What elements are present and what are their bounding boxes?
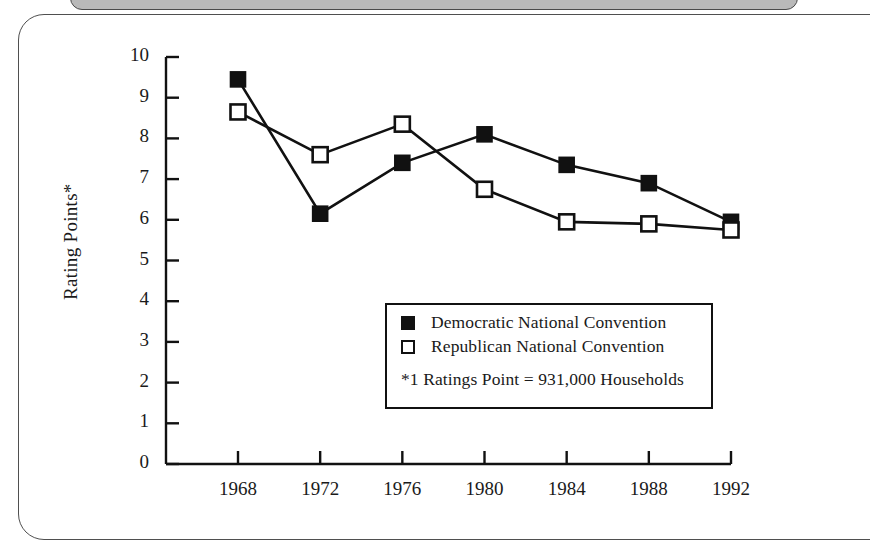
- open-square-marker: [724, 222, 739, 237]
- legend-label-republican: Republican National Convention: [431, 336, 664, 357]
- open-square-marker: [641, 216, 656, 231]
- x-tick-label: 1980: [450, 478, 520, 500]
- filled-square-icon: [401, 316, 415, 330]
- chart-plot-area: Rating Points* 109876543210 196819721976…: [0, 0, 870, 555]
- legend-footnote: *1 Ratings Point = 931,000 Households: [401, 369, 684, 390]
- y-tick-label: 0: [119, 451, 149, 473]
- filled-square-marker: [559, 157, 574, 172]
- filled-square-marker: [395, 155, 410, 170]
- open-square-icon: [401, 340, 415, 354]
- x-tick-label: 1992: [696, 478, 766, 500]
- open-square-marker: [313, 147, 328, 162]
- y-tick-label: 7: [119, 166, 149, 188]
- x-axis-ticks: [238, 451, 731, 464]
- y-tick-label: 3: [119, 329, 149, 351]
- y-axis-ticks: [166, 57, 179, 464]
- open-square-marker: [395, 117, 410, 132]
- y-tick-label: 4: [119, 288, 149, 310]
- y-tick-label: 2: [119, 370, 149, 392]
- legend-item-republican: Republican National Convention: [401, 336, 664, 357]
- legend-footnote-text: *1 Ratings Point = 931,000 Households: [401, 369, 684, 389]
- y-tick-label: 8: [119, 125, 149, 147]
- y-tick-label: 1: [119, 410, 149, 432]
- filled-square-marker: [641, 176, 656, 191]
- figure-root: Rating Points* 109876543210 196819721976…: [0, 0, 870, 555]
- series-markers: [231, 72, 739, 238]
- y-tick-label: 5: [119, 248, 149, 270]
- filled-square-marker: [231, 72, 246, 87]
- x-tick-label: 1976: [367, 478, 437, 500]
- x-tick-label: 1972: [285, 478, 355, 500]
- legend-item-democratic: Democratic National Convention: [401, 312, 666, 333]
- y-tick-label: 10: [119, 44, 149, 66]
- y-tick-label: 6: [119, 207, 149, 229]
- legend-label-democratic: Democratic National Convention: [431, 312, 666, 333]
- filled-square-marker: [313, 206, 328, 221]
- filled-square-marker: [477, 127, 492, 142]
- x-tick-label: 1968: [203, 478, 273, 500]
- open-square-marker: [231, 104, 246, 119]
- x-tick-label: 1984: [532, 478, 602, 500]
- y-tick-label: 9: [119, 85, 149, 107]
- x-tick-label: 1988: [614, 478, 684, 500]
- y-axis-label: Rating Points*: [60, 100, 82, 300]
- open-square-marker: [559, 214, 574, 229]
- chart-legend: Democratic National Convention Republica…: [385, 303, 713, 409]
- open-square-marker: [477, 182, 492, 197]
